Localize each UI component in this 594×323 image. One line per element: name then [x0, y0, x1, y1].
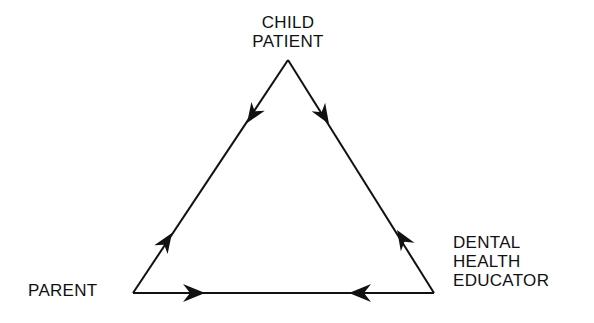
- arrow-child-to-educator-icon: [312, 103, 336, 128]
- node-dental-health-educator: DENTAL HEALTH EDUCATOR: [453, 233, 549, 290]
- edge-child-educator: [288, 60, 434, 293]
- arrow-parent-to-child-icon: [154, 229, 178, 255]
- node-parent: PARENT: [28, 281, 98, 300]
- arrow-child-to-parent-icon: [240, 102, 264, 128]
- parent-label: PARENT: [28, 281, 98, 300]
- edge-child-parent: [133, 60, 288, 293]
- node-child-patient: CHILD PATIENT: [250, 13, 326, 51]
- child-label-line-1: CHILD: [250, 13, 326, 32]
- educator-label-line-1: DENTAL: [453, 233, 549, 252]
- triangle-edges: [133, 60, 434, 293]
- child-label-line-2: PATIENT: [250, 32, 326, 51]
- educator-label-line-2: HEALTH: [453, 252, 549, 271]
- educator-label-line-3: EDUCATOR: [453, 271, 549, 290]
